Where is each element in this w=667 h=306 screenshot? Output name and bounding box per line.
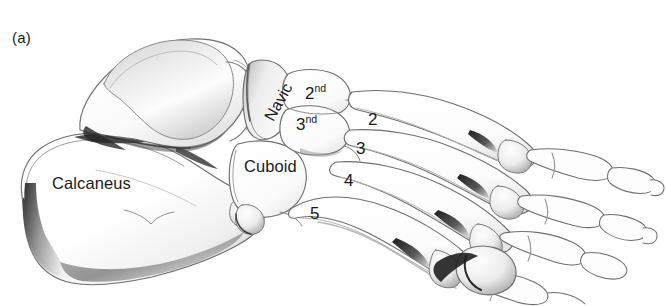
cuboid-bone — [229, 141, 306, 234]
talus-bone — [80, 39, 257, 152]
metatarsal-5-label: 5 — [310, 205, 319, 222]
metatarsal-2-label: 2 — [368, 111, 377, 128]
panel-id: (a) — [12, 30, 31, 45]
foot-skeleton-illustration — [0, 0, 667, 306]
foot-skeleton-figure: (a) Calcaneus Navic Cuboid 2nd 3nd 2 3 4… — [0, 0, 667, 306]
metatarsal-4-label: 4 — [344, 172, 353, 189]
calcaneus-label: Calcaneus — [52, 175, 131, 192]
metatarsal-3-label: 3 — [356, 140, 365, 157]
second-cuneiform-suffix: nd — [314, 82, 326, 94]
cuboid-label: Cuboid — [244, 158, 297, 175]
third-cuneiform-label: 3nd — [296, 114, 317, 133]
calcaneus-bone — [21, 133, 264, 285]
third-cuneiform-suffix: nd — [305, 113, 317, 125]
second-cuneiform-label: 2nd — [305, 83, 326, 102]
